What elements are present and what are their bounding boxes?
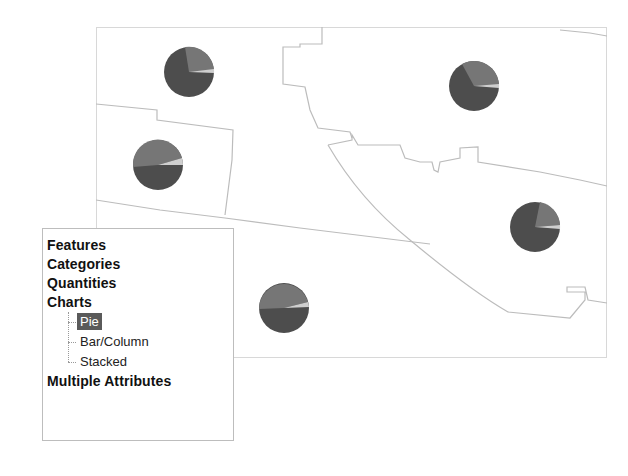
boundary-line	[328, 145, 607, 318]
symbology-tree-panel: Features Categories Quantities Charts Pi…	[42, 228, 234, 441]
pie-symbol[interactable]	[259, 283, 309, 333]
tree-item-charts[interactable]: Charts	[47, 293, 233, 312]
tree-item-quantities[interactable]: Quantities	[47, 274, 233, 293]
tree-item-multiple-attributes[interactable]: Multiple Attributes	[47, 372, 233, 391]
tree-item-categories[interactable]: Categories	[47, 255, 233, 274]
pie-symbol[interactable]	[510, 202, 560, 252]
pie-symbol[interactable]	[164, 47, 214, 97]
pie-symbol[interactable]	[133, 140, 183, 190]
tree-connector-line	[68, 362, 76, 363]
pie-symbol[interactable]	[449, 61, 499, 111]
boundary-line	[560, 30, 607, 36]
boundary-line	[283, 27, 352, 138]
tree-item-stacked-label: Stacked	[77, 353, 130, 370]
boundary-line	[328, 135, 607, 186]
tree-item-stacked[interactable]: Stacked	[77, 352, 233, 372]
tree-connector-line	[68, 342, 76, 343]
tree-item-bar-column[interactable]: Bar/Column	[77, 332, 233, 352]
tree-item-bar-column-label: Bar/Column	[77, 333, 152, 350]
charts-children: Pie Bar/Column Stacked	[47, 312, 233, 372]
tree-connector-line	[68, 312, 69, 362]
tree-item-pie-label: Pie	[77, 313, 102, 330]
tree-connector-line	[68, 322, 76, 323]
tree-item-features[interactable]: Features	[47, 236, 233, 255]
tree-item-pie[interactable]: Pie	[77, 312, 233, 332]
